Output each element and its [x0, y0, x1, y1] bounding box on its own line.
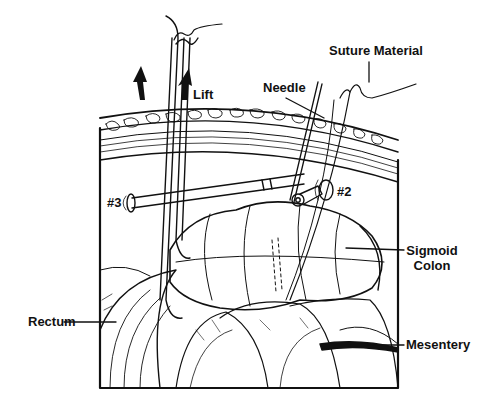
label-mesentery: Mesentery: [406, 337, 470, 352]
mesentery: [176, 299, 398, 388]
view-frame: [100, 128, 398, 388]
label-sigmoid-colon-line1: Sigmoid: [404, 243, 460, 258]
label-sigmoid-colon-line2: Colon: [404, 258, 460, 273]
label-suture-material: Suture Material: [329, 43, 423, 58]
label-rectum: Rectum: [28, 314, 76, 329]
label-lift: Lift: [193, 87, 213, 102]
label-sigmoid-colon: Sigmoid Colon: [404, 243, 460, 273]
laparoscopic-instrument: [123, 174, 333, 212]
abdominal-wall: [100, 108, 398, 182]
label-port-3: #3: [107, 195, 121, 210]
sigmoid-colon: [170, 202, 384, 310]
label-needle: Needle: [263, 80, 306, 95]
label-port-2: #2: [337, 184, 351, 199]
rectum: [100, 267, 176, 388]
